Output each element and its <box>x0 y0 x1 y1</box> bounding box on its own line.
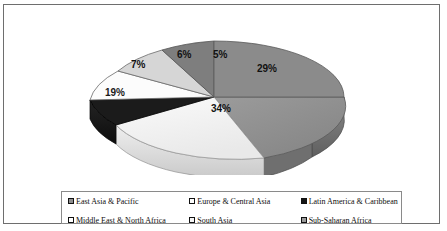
legend-swatch-icon <box>301 217 307 223</box>
legend-label: Europe & Central Asia <box>197 197 270 206</box>
legend-row: East Asia & Pacific Europe & Central Asi… <box>62 194 401 208</box>
legend-swatch-icon <box>301 198 307 204</box>
legend-item-south-asia[interactable]: South Asia <box>183 213 294 227</box>
legend-swatch-icon <box>189 217 195 223</box>
chart-frame: 29% 34% 19% 7% 6% 5% East Asia & Pacific… <box>3 4 440 224</box>
legend-label: East Asia & Pacific <box>76 197 138 206</box>
legend-swatch-icon <box>189 198 195 204</box>
legend-item-europe-central-asia[interactable]: Europe & Central Asia <box>183 194 294 208</box>
legend-label: Sub-Saharan Africa <box>309 216 372 225</box>
legend-item-sub-saharan-africa[interactable]: Sub-Saharan Africa <box>295 213 401 227</box>
pie-label-east-asia-pacific: 29% <box>257 63 277 74</box>
legend-label: Middle East & North Africa <box>76 216 166 225</box>
chart-legend: East Asia & Pacific Europe & Central Asi… <box>61 191 402 224</box>
legend-label: Latin America & Caribbean <box>309 197 398 206</box>
legend-swatch-icon <box>68 217 74 223</box>
pie-chart-area: 29% 34% 19% 7% 6% 5% <box>4 5 441 183</box>
legend-item-latin-america-caribbean[interactable]: Latin America & Caribbean <box>295 194 401 208</box>
legend-item-east-asia-pacific[interactable]: East Asia & Pacific <box>62 194 183 208</box>
legend-label: South Asia <box>197 216 232 225</box>
pie-label-south-asia: 34% <box>211 103 231 114</box>
legend-swatch-icon <box>68 198 74 204</box>
screenshot-root: 29% 34% 19% 7% 6% 5% East Asia & Pacific… <box>0 0 447 231</box>
pie-label-europe-central-asia: 6% <box>177 49 191 60</box>
pie-slice-east-asia-pacific-upper <box>214 41 344 97</box>
legend-item-middle-east-north-africa[interactable]: Middle East & North Africa <box>62 213 183 227</box>
pie-label-middle-east-north-africa: 5% <box>213 49 227 60</box>
legend-row: Middle East & North Africa South Asia Su… <box>62 213 401 227</box>
pie-label-latin-america-caribbean: 19% <box>105 87 125 98</box>
pie-label-sub-saharan-africa: 7% <box>131 59 145 70</box>
